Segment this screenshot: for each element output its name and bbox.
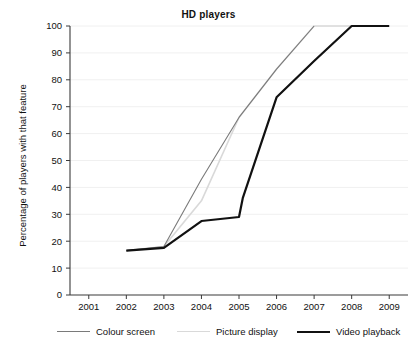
y-axis-tick-label: 0 xyxy=(57,289,62,300)
chart-container: HD players Percentage of players with th… xyxy=(0,0,417,360)
legend-item-picture-display[interactable]: Picture display xyxy=(177,326,278,337)
x-axis-tick-label: 2005 xyxy=(228,301,249,312)
y-axis-tick-label: 80 xyxy=(51,74,62,85)
x-axis-tick-label: 2002 xyxy=(116,301,137,312)
y-axis-tick-label: 100 xyxy=(46,20,62,31)
x-axis-tick-label: 2001 xyxy=(78,301,99,312)
x-axis-tick-label: 2004 xyxy=(191,301,212,312)
legend-swatch-video-playback xyxy=(297,331,330,333)
y-axis-tick-label: 90 xyxy=(51,47,62,58)
y-axis-tick-label: 70 xyxy=(51,101,62,112)
y-axis-tick-label: 30 xyxy=(51,209,62,220)
legend-swatch-picture-display xyxy=(177,331,210,332)
y-axis-tick-label: 20 xyxy=(51,236,62,247)
series-line-video-playback xyxy=(126,26,389,251)
y-axis-tick-label: 50 xyxy=(51,155,62,166)
legend-label-colour-screen: Colour screen xyxy=(96,326,155,337)
series-line-colour-screen xyxy=(126,26,314,251)
legend-item-video-playback[interactable]: Video playback xyxy=(297,326,400,337)
legend-swatch-colour-screen xyxy=(57,331,90,332)
y-axis-tick-label: 60 xyxy=(51,128,62,139)
legend-item-colour-screen[interactable]: Colour screen xyxy=(57,326,155,337)
x-axis-tick-label: 2003 xyxy=(153,301,174,312)
x-axis-tick-label: 2009 xyxy=(379,301,400,312)
y-axis-tick-label: 10 xyxy=(51,263,62,274)
legend-label-video-playback: Video playback xyxy=(336,326,400,337)
legend-label-picture-display: Picture display xyxy=(216,326,278,337)
chart-legend: Colour screen Picture display Video play… xyxy=(0,326,417,346)
x-axis-tick-label: 2007 xyxy=(304,301,325,312)
x-axis-tick-label: 2006 xyxy=(266,301,287,312)
x-axis-tick-label: 2008 xyxy=(341,301,362,312)
chart-plot-area: 0102030405060708090100200120022003200420… xyxy=(0,0,417,325)
y-axis-tick-label: 40 xyxy=(51,182,62,193)
